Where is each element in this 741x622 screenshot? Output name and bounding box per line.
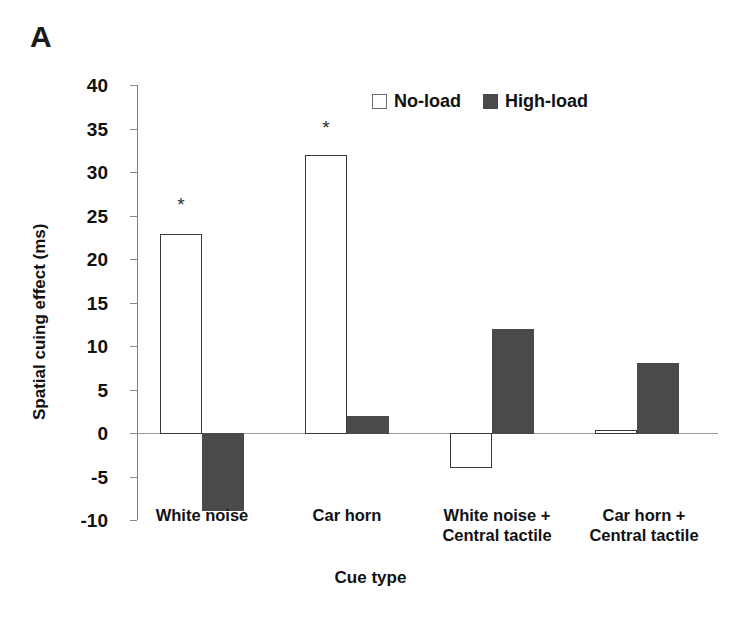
significance-star-white-noise: * xyxy=(171,195,191,214)
y-axis-title: Spatial cuing effect (ms) xyxy=(30,224,50,420)
significance-star-car-horn: * xyxy=(316,118,336,137)
y-tick-label-20: 20 xyxy=(62,250,108,269)
x-category-line-1: Car horn xyxy=(284,505,410,525)
y-tick-minus-5 xyxy=(130,477,137,478)
x-category-label-white-noise-central-tactile: White noise + Central tactile xyxy=(426,505,568,545)
panel-letter: A xyxy=(30,22,52,52)
y-tick-20 xyxy=(130,259,137,260)
x-axis-title: Cue type xyxy=(0,568,741,588)
bar-no-load-white-noise-central-tactile xyxy=(450,433,492,468)
bar-high-load-white-noise xyxy=(202,433,244,511)
y-tick-label-30: 30 xyxy=(62,163,108,182)
y-tick-label-25: 25 xyxy=(62,207,108,226)
x-category-label-white-noise: White noise xyxy=(139,505,265,525)
y-tick-15 xyxy=(130,303,137,304)
y-tick-label-minus-10: -10 xyxy=(62,511,108,530)
y-tick-label-15: 15 xyxy=(62,294,108,313)
bar-no-load-car-horn xyxy=(305,155,347,434)
x-category-line-1: White noise xyxy=(139,505,265,525)
y-tick-35 xyxy=(130,129,137,130)
y-tick-10 xyxy=(130,346,137,347)
y-tick-label-0: 0 xyxy=(62,424,108,443)
y-tick-label-10: 10 xyxy=(62,337,108,356)
y-tick-label-35: 35 xyxy=(62,120,108,139)
y-tick-5 xyxy=(130,390,137,391)
x-category-label-car-horn-central-tactile: Car horn + Central tactile xyxy=(573,505,715,545)
bar-high-load-car-horn xyxy=(347,416,389,434)
bar-high-load-car-horn-central-tactile xyxy=(637,363,679,434)
y-tick-label-40: 40 xyxy=(62,76,108,95)
y-axis-line xyxy=(137,85,138,520)
x-category-label-car-horn: Car horn xyxy=(284,505,410,525)
y-tick-30 xyxy=(130,172,137,173)
x-category-line-2: Central tactile xyxy=(426,525,568,545)
x-category-line-2: Central tactile xyxy=(573,525,715,545)
y-tick-label-minus-5: -5 xyxy=(62,468,108,487)
y-tick-label-5: 5 xyxy=(62,381,108,400)
y-tick-0 xyxy=(130,433,137,434)
y-tick-25 xyxy=(130,216,137,217)
y-tick-minus-10 xyxy=(130,520,137,521)
plot-area: * * xyxy=(137,85,718,520)
figure-panel-a: A Spatial cuing effect (ms) Cue type No-… xyxy=(0,0,741,622)
bar-no-load-white-noise xyxy=(160,234,202,434)
x-category-line-1: White noise + xyxy=(426,505,568,525)
bar-no-load-car-horn-central-tactile xyxy=(595,430,637,434)
y-tick-40 xyxy=(130,85,137,86)
bar-high-load-white-noise-central-tactile xyxy=(492,329,534,434)
x-category-line-1: Car horn + xyxy=(573,505,715,525)
